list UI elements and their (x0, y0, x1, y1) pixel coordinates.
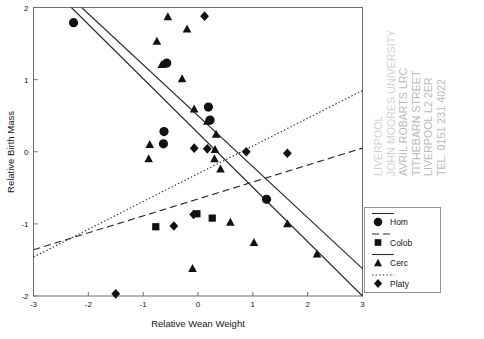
data-point-hom (69, 18, 78, 27)
y-tick-label: 2 (24, 4, 29, 13)
y-tick-label: 1 (24, 76, 29, 85)
data-point-hom (159, 127, 168, 136)
data-point-cerc (188, 264, 197, 272)
x-tick-label: -2 (85, 300, 93, 309)
data-point-hom (159, 139, 168, 148)
data-point-colob (209, 215, 216, 222)
y-axis-title: Relative Birth Mass (5, 111, 16, 193)
data-point-cerc (226, 218, 235, 226)
legend-label-cerc: Cerc (390, 258, 409, 268)
data-point-colob (152, 223, 159, 230)
plot-canvas: -3-2-10123 -2-1012 Relative Wean Weight … (0, 0, 484, 339)
legend-marker-colob (375, 239, 382, 246)
data-point-platy (200, 11, 209, 21)
x-tick-label: -1 (140, 300, 148, 309)
regression-lines (34, 8, 363, 297)
plot-frame (34, 8, 363, 297)
data-point-cerc (283, 219, 292, 227)
data-point-cerc (145, 140, 154, 148)
x-axis-title: Relative Wean Weight (151, 318, 245, 329)
y-axis-ticks: -2-1012 (21, 4, 37, 302)
data-point-platy (283, 148, 292, 158)
data-point-cerc (250, 238, 259, 246)
legend-marker-hom (374, 218, 382, 226)
y-tick-label: -2 (21, 292, 29, 301)
data-point-platy (169, 221, 178, 231)
data-point-platy (190, 143, 199, 153)
y-tick-label: 0 (24, 148, 29, 157)
x-axis-ticks: -3-2-10123 (30, 292, 365, 309)
x-tick-label: 2 (305, 300, 310, 309)
data-point-cerc (212, 130, 221, 138)
data-point-cerc (153, 37, 162, 45)
x-tick-label: 3 (360, 300, 365, 309)
legend-label-hom: Hom (390, 217, 408, 227)
data-point-cerc (144, 154, 153, 162)
x-tick-label: 1 (251, 300, 256, 309)
legend-marker-cerc (374, 259, 382, 266)
x-tick-label: -3 (30, 300, 38, 309)
data-point-hom (204, 102, 213, 111)
data-point-platy (111, 289, 120, 299)
legend-entries: HomColobCercPlaty (372, 214, 412, 289)
legend-label-colob: Colob (390, 238, 412, 248)
data-point-hom (262, 195, 271, 204)
legend: HomColobCercPlaty (365, 208, 441, 293)
regression-line-cerc (82, 8, 363, 269)
data-point-cerc (164, 12, 173, 20)
data-point-cerc (183, 25, 192, 33)
legend-label-platy: Platy (390, 279, 410, 289)
regression-line-colob (34, 148, 363, 250)
x-tick-label: 0 (196, 300, 201, 309)
data-point-cerc (210, 154, 219, 162)
y-tick-label: -1 (21, 220, 29, 229)
data-point-cerc (216, 164, 225, 172)
legend-marker-platy (374, 279, 382, 288)
data-point-cerc (178, 74, 187, 82)
data-point-platy (242, 147, 251, 157)
data-point-markers (69, 11, 321, 298)
scatter-plot-figure: -3-2-10123 -2-1012 Relative Wean Weight … (0, 0, 484, 339)
